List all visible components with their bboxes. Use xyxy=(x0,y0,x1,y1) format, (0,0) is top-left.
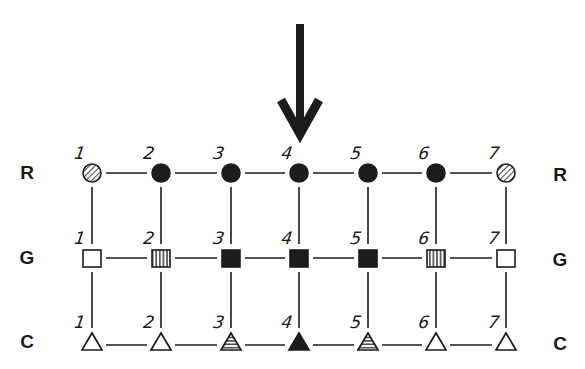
node-g7-square-icon xyxy=(497,250,515,267)
node-r6-circle-icon xyxy=(427,164,445,182)
node-r1-circle-icon xyxy=(83,164,101,182)
node-c2-triangle-icon xyxy=(151,333,171,350)
row-label-right-c: C xyxy=(553,334,567,353)
node-g3-square-icon xyxy=(222,250,240,267)
node-number-label: 7 xyxy=(487,145,500,162)
node-c1-triangle-icon xyxy=(82,333,102,350)
node-number-label: 6 xyxy=(417,230,430,247)
node-g2-square-icon xyxy=(152,250,170,267)
node-g1-square-icon xyxy=(83,250,101,267)
node-c4-triangle-icon xyxy=(289,333,309,350)
node-number-label: 6 xyxy=(417,314,430,331)
node-number-label: 7 xyxy=(487,314,500,331)
row-label-left-r: R xyxy=(20,163,34,182)
node-g6-square-icon xyxy=(427,250,445,267)
node-number-label: 7 xyxy=(487,230,500,247)
row-label-left-g: G xyxy=(20,248,35,267)
grid-diagram: 1234567RR1234567GG1234567CC xyxy=(0,0,585,369)
down-arrow-icon xyxy=(281,24,319,134)
node-c6-triangle-icon xyxy=(426,333,446,350)
node-number-label: 6 xyxy=(417,145,430,162)
node-c3-triangle-icon xyxy=(221,333,241,350)
node-g5-square-icon xyxy=(359,250,377,267)
node-g4-square-icon xyxy=(290,250,308,267)
node-c7-triangle-icon xyxy=(496,333,516,350)
node-c5-triangle-icon xyxy=(358,333,378,350)
node-r4-circle-icon xyxy=(290,164,308,182)
node-r3-circle-icon xyxy=(222,164,240,182)
node-r2-circle-icon xyxy=(152,164,170,182)
node-r7-circle-icon xyxy=(497,164,515,182)
row-label-right-g: G xyxy=(553,250,568,269)
node-r5-circle-icon xyxy=(359,164,377,182)
row-label-left-c: C xyxy=(20,332,34,351)
row-label-right-r: R xyxy=(553,165,567,184)
